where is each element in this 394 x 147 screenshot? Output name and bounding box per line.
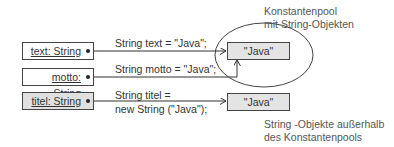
code-titel-declaration-line2: new String ("Java"); <box>115 103 207 115</box>
pool-note-line2: mit String-Objekten <box>264 18 354 31</box>
code-titel-declaration-line1: String titel = <box>115 89 171 101</box>
variable-text-label: text: String <box>31 45 81 57</box>
code-motto-declaration: String motto = "Java"; <box>115 63 216 75</box>
variable-titel: titel: String <box>22 92 94 110</box>
variable-titel-label: titel: String <box>31 95 81 107</box>
reference-dot <box>86 99 90 103</box>
pool-note-line1: Konstantenpool <box>264 5 337 18</box>
code-text-declaration: String text = "Java"; <box>115 37 207 49</box>
pool-string-object: "Java" <box>227 42 290 60</box>
reference-dot <box>86 49 90 53</box>
variable-text: text: String <box>22 42 94 60</box>
variable-motto: motto: String <box>22 68 94 86</box>
heap-string-object: "Java" <box>227 93 290 111</box>
reference-dot <box>86 75 90 79</box>
heap-note-line1: String -Objekte außerhalb <box>264 118 384 131</box>
heap-note-line2: des Konstantenpools <box>264 131 362 144</box>
